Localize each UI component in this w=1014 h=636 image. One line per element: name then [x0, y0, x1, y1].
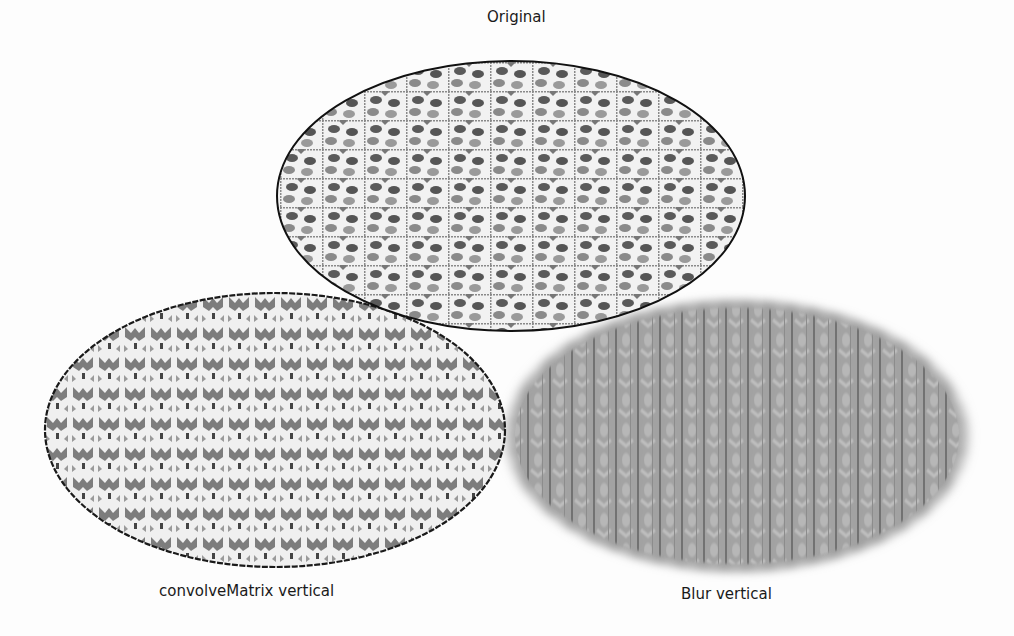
blur-vertical-label: Blur vertical	[681, 585, 772, 603]
canvas	[0, 0, 1014, 636]
original-ellipse	[277, 61, 745, 331]
original-label: Original	[487, 8, 546, 26]
blur-vertical-ellipse	[507, 300, 967, 572]
convolve-matrix-label: convolveMatrix vertical	[159, 582, 334, 600]
convolve-matrix-ellipse	[45, 293, 505, 567]
